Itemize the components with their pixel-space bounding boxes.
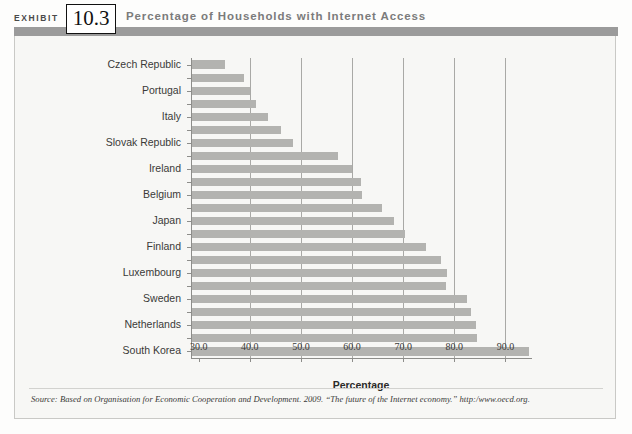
figure-frame: Czech RepublicPortugalItalySlovak Republ… bbox=[14, 36, 616, 419]
y-axis-category-label: Netherlands bbox=[124, 318, 181, 330]
x-tick-label: 70.0 bbox=[383, 341, 423, 352]
plot-area bbox=[191, 58, 531, 358]
y-tick bbox=[187, 312, 191, 313]
source-divider bbox=[29, 388, 603, 389]
y-axis-category-label: Belgium bbox=[143, 188, 181, 200]
x-tick-label: 30.0 bbox=[179, 341, 219, 352]
x-tick-label: 90.0 bbox=[485, 341, 525, 352]
x-tick-label: 40.0 bbox=[230, 341, 270, 352]
exhibit-number: 10.3 bbox=[66, 4, 116, 34]
y-tick bbox=[187, 195, 191, 196]
y-axis-category-label: Finland bbox=[147, 240, 181, 252]
y-axis-category-label: South Korea bbox=[123, 344, 181, 356]
y-tick bbox=[187, 156, 191, 157]
x-tick bbox=[250, 358, 251, 362]
x-tick-label: 60.0 bbox=[332, 341, 372, 352]
bar bbox=[192, 178, 361, 186]
bar bbox=[192, 269, 447, 277]
bar bbox=[192, 139, 293, 147]
y-tick bbox=[187, 208, 191, 209]
y-axis-category-label: Portugal bbox=[142, 84, 181, 96]
y-axis-labels: Czech RepublicPortugalItalySlovak Republ… bbox=[15, 58, 187, 358]
bar bbox=[192, 217, 394, 225]
y-axis-category-label: Japan bbox=[152, 214, 181, 226]
x-tick bbox=[505, 358, 506, 362]
y-tick bbox=[187, 299, 191, 300]
bar bbox=[192, 256, 441, 264]
y-tick bbox=[187, 65, 191, 66]
bar bbox=[192, 321, 476, 329]
y-axis-category-label: Slovak Republic bbox=[106, 136, 181, 148]
y-tick bbox=[187, 338, 191, 339]
y-tick bbox=[187, 130, 191, 131]
exhibit-label: EXHIBIT bbox=[14, 13, 59, 23]
x-tick bbox=[454, 358, 455, 362]
y-axis-category-label: Ireland bbox=[149, 162, 181, 174]
bar bbox=[192, 230, 405, 238]
y-tick bbox=[187, 260, 191, 261]
y-tick bbox=[187, 78, 191, 79]
exhibit-title: Percentage of Households with Internet A… bbox=[126, 10, 426, 22]
y-axis-category-label: Czech Republic bbox=[107, 58, 181, 70]
y-tick bbox=[187, 117, 191, 118]
chart-canvas: Czech RepublicPortugalItalySlovak Republ… bbox=[15, 36, 617, 419]
bar bbox=[192, 87, 250, 95]
x-tick-label: 80.0 bbox=[434, 341, 474, 352]
x-axis-title: Percentage bbox=[191, 379, 531, 391]
source-note: Source: Based on Organisation for Econom… bbox=[31, 394, 609, 404]
bar bbox=[192, 113, 268, 121]
x-axis-line bbox=[191, 358, 532, 359]
y-tick bbox=[187, 143, 191, 144]
y-tick bbox=[187, 234, 191, 235]
y-tick bbox=[187, 169, 191, 170]
x-tick bbox=[301, 358, 302, 362]
y-tick bbox=[187, 247, 191, 248]
y-tick bbox=[187, 221, 191, 222]
y-axis-category-label: Italy bbox=[162, 110, 181, 122]
bar bbox=[192, 126, 281, 134]
bar bbox=[192, 165, 352, 173]
y-axis-category-label: Luxembourg bbox=[123, 266, 181, 278]
x-tick-label: 50.0 bbox=[281, 341, 321, 352]
y-axis-category-label: Sweden bbox=[143, 292, 181, 304]
x-tick bbox=[352, 358, 353, 362]
bar bbox=[192, 191, 362, 199]
bar bbox=[192, 152, 338, 160]
x-tick bbox=[199, 358, 200, 362]
bar bbox=[192, 60, 225, 68]
bar bbox=[192, 308, 471, 316]
gridline bbox=[505, 58, 506, 358]
exhibit-page: EXHIBIT 10.3 Percentage of Households wi… bbox=[0, 0, 632, 434]
bar bbox=[192, 295, 467, 303]
y-tick bbox=[187, 273, 191, 274]
bar bbox=[192, 243, 426, 251]
bar bbox=[192, 100, 256, 108]
x-tick bbox=[403, 358, 404, 362]
bar bbox=[192, 204, 382, 212]
bar bbox=[192, 282, 446, 290]
y-tick bbox=[187, 325, 191, 326]
exhibit-header: EXHIBIT 10.3 Percentage of Households wi… bbox=[0, 0, 632, 34]
y-tick bbox=[187, 104, 191, 105]
bar bbox=[192, 74, 244, 82]
y-tick bbox=[187, 182, 191, 183]
y-tick bbox=[187, 91, 191, 92]
y-tick bbox=[187, 286, 191, 287]
